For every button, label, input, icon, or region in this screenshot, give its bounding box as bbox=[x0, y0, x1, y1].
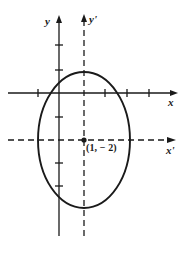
y-axis-group bbox=[55, 15, 63, 236]
x-prime-axis-label: x' bbox=[166, 145, 175, 156]
conic-diagram-figure: y y' x x' (1, − 2) bbox=[0, 0, 190, 255]
y-prime-axis-group bbox=[81, 14, 87, 236]
y-axis-arrowhead-icon bbox=[56, 15, 62, 23]
x-axis-label: x bbox=[168, 97, 174, 108]
diagram-canvas bbox=[0, 0, 190, 255]
y-prime-axis-arrowhead-icon bbox=[81, 14, 87, 22]
y-axis-label: y bbox=[45, 16, 50, 27]
y-prime-axis-label: y' bbox=[89, 14, 97, 25]
x-prime-axis-arrowhead-icon bbox=[167, 137, 176, 143]
x-axis-group bbox=[8, 89, 178, 97]
center-point-label: (1, − 2) bbox=[86, 143, 117, 153]
